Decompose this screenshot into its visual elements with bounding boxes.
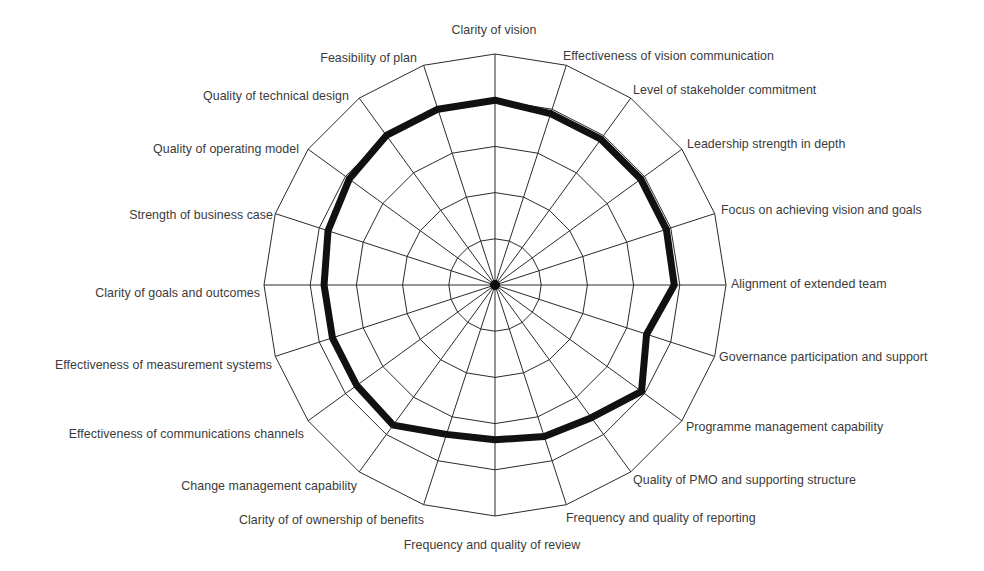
axis-label-2: Level of stakeholder commitment — [633, 83, 817, 97]
axis-label-17: Quality of operating model — [153, 142, 299, 156]
axis-label-3: Leadership strength in depth — [687, 137, 846, 151]
axis-label-19: Feasibility of plan — [320, 51, 417, 65]
axis-spoke-14 — [275, 285, 495, 356]
axis-label-16: Strength of business case — [129, 208, 273, 222]
axis-spoke-19 — [424, 65, 495, 285]
axis-label-8: Quality of PMO and supporting structure — [633, 473, 856, 487]
axis-spoke-8 — [495, 285, 631, 472]
axis-spoke-4 — [495, 214, 715, 285]
chart-center-point — [490, 280, 500, 290]
radar-chart-svg: Clarity of visionEffectiveness of vision… — [0, 0, 984, 571]
axis-spoke-16 — [275, 214, 495, 285]
axis-label-4: Focus on achieving vision and goals — [721, 203, 922, 217]
axis-spoke-3 — [495, 149, 682, 285]
radar-chart-container: Clarity of visionEffectiveness of vision… — [0, 0, 984, 571]
axis-spoke-7 — [495, 285, 682, 421]
axis-label-10: Frequency and quality of review — [404, 538, 581, 552]
axis-label-12: Change management capability — [181, 479, 357, 493]
axis-spoke-6 — [495, 285, 715, 356]
axis-spoke-1 — [495, 65, 566, 285]
axis-label-6: Governance participation and support — [719, 350, 928, 364]
axis-spoke-13 — [308, 285, 495, 421]
axis-label-7: Programme management capability — [686, 420, 884, 434]
axis-label-13: Effectiveness of communications channels — [69, 427, 304, 441]
axis-label-9: Frequency and quality of reporting — [566, 511, 756, 525]
axis-label-1: Effectiveness of vision communication — [563, 49, 774, 63]
axis-spoke-9 — [495, 285, 566, 505]
axis-label-0: Clarity of vision — [452, 23, 537, 37]
data-series-group — [324, 100, 674, 440]
axis-spoke-2 — [495, 98, 631, 285]
axis-label-11: Clarity of of ownership of benefits — [239, 513, 424, 527]
axis-spoke-11 — [424, 285, 495, 505]
axis-label-15: Clarity of goals and outcomes — [95, 286, 260, 300]
axis-label-14: Effectiveness of measurement systems — [55, 358, 272, 372]
axis-label-18: Quality of technical design — [203, 89, 349, 103]
axis-spoke-18 — [359, 98, 495, 285]
series-polygon-0 — [324, 100, 674, 440]
axis-spoke-12 — [359, 285, 495, 472]
axis-label-5: Alignment of extended team — [731, 277, 887, 291]
